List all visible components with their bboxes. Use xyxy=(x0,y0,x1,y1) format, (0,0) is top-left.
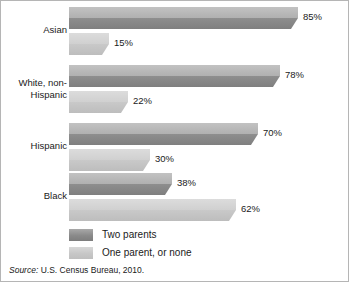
legend-label-two-parents: Two parents xyxy=(102,229,156,240)
bar-front-face xyxy=(69,76,273,87)
bar-body xyxy=(69,33,109,55)
bar-group-hispanic: Hispanic 70% 30% xyxy=(1,123,348,175)
bar-end-cap xyxy=(165,184,172,195)
bar-front-face xyxy=(69,210,229,221)
legend-item-two-parents: Two parents xyxy=(69,227,192,242)
legend-swatch-one-parent xyxy=(69,247,93,259)
bar-front-face xyxy=(69,184,165,195)
bar-body xyxy=(69,199,236,221)
value-label-hispanic-two-parents: 70% xyxy=(263,127,282,138)
category-label-hispanic: Hispanic xyxy=(0,140,67,152)
bar-end-cap xyxy=(251,134,258,145)
value-label-white-two-parents: 78% xyxy=(285,69,304,80)
category-label-asian: Asian xyxy=(0,24,67,36)
chart-legend: Two parents One parent, or none xyxy=(69,227,192,263)
bar-top-face xyxy=(69,65,280,76)
bar-front-face xyxy=(69,134,251,145)
bar-body xyxy=(69,65,280,87)
bar-top-face xyxy=(69,173,172,184)
value-label-black-two-parents: 38% xyxy=(177,177,196,188)
bar-front-face xyxy=(69,44,102,55)
value-label-white-one-parent: 22% xyxy=(133,95,152,106)
bar-top-face xyxy=(69,199,236,210)
value-label-hispanic-one-parent: 30% xyxy=(155,153,174,164)
bar-body xyxy=(69,7,298,29)
bar-chart-figure: Asian 85% 15% White, non- Hisp xyxy=(0,0,349,282)
bar-top-face xyxy=(69,91,128,102)
bar-body xyxy=(69,173,172,195)
source-prefix: Source: xyxy=(9,265,38,275)
legend-item-one-parent: One parent, or none xyxy=(69,245,192,260)
value-label-black-one-parent: 62% xyxy=(241,203,260,214)
value-label-asian-two-parents: 85% xyxy=(303,11,322,22)
legend-swatch-two-parents xyxy=(69,229,93,241)
legend-label-one-parent: One parent, or none xyxy=(102,247,192,258)
bar-body xyxy=(69,123,258,145)
bar-end-cap xyxy=(273,76,280,87)
bar-end-cap xyxy=(121,102,128,113)
category-label-white-non-hispanic: White, non- Hispanic xyxy=(0,77,67,100)
bar-top-face xyxy=(69,7,298,18)
plot-area: Asian 85% 15% White, non- Hisp xyxy=(1,1,348,223)
bar-body xyxy=(69,149,150,171)
bar-front-face xyxy=(69,18,291,29)
bar-body xyxy=(69,91,128,113)
bar-end-cap xyxy=(143,160,150,171)
bar-top-face xyxy=(69,149,150,160)
bar-end-cap xyxy=(291,18,298,29)
bar-end-cap xyxy=(229,210,236,221)
bar-front-face xyxy=(69,160,143,171)
bar-top-face xyxy=(69,123,258,134)
bar-top-face xyxy=(69,33,109,44)
bar-group-black: Black 38% 62% xyxy=(1,173,348,225)
value-label-asian-one-parent: 15% xyxy=(114,37,133,48)
bar-group-white-non-hispanic: White, non- Hispanic 78% 22% xyxy=(1,65,348,117)
source-text: U.S. Census Bureau, 2010. xyxy=(38,265,144,275)
bar-front-face xyxy=(69,102,121,113)
bar-group-asian: Asian 85% 15% xyxy=(1,7,348,59)
source-note: Source: U.S. Census Bureau, 2010. xyxy=(9,265,144,275)
bar-end-cap xyxy=(102,44,109,55)
category-label-black: Black xyxy=(0,190,67,202)
